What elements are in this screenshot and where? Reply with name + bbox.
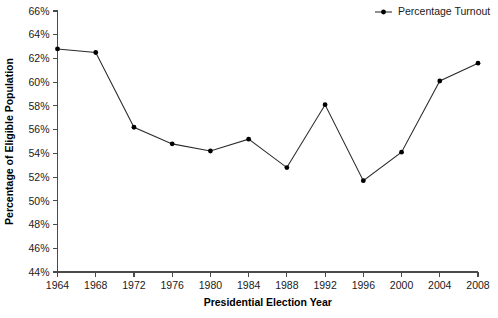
y-axis-tick-label: 48% xyxy=(28,218,49,230)
data-point-marker[interactable] xyxy=(476,61,481,66)
x-axis-tick-label: 1984 xyxy=(237,279,261,291)
data-point-marker[interactable] xyxy=(132,125,137,130)
y-axis-tick-label: 66% xyxy=(28,5,49,17)
y-axis-tick-label: 60% xyxy=(28,76,49,88)
data-point-marker[interactable] xyxy=(284,165,289,170)
y-axis-tick-label: 50% xyxy=(28,195,49,207)
y-axis-tick-label: 44% xyxy=(28,266,49,278)
data-point-marker[interactable] xyxy=(323,102,328,107)
y-axis-tick-label: 58% xyxy=(28,100,49,112)
data-point-marker[interactable] xyxy=(55,47,60,52)
y-axis-tick-label: 64% xyxy=(28,28,49,40)
data-point-marker[interactable] xyxy=(246,137,251,142)
x-axis-tick-label: 1980 xyxy=(199,279,223,291)
y-axis-tick-label: 52% xyxy=(28,171,49,183)
series-line-0 xyxy=(58,49,479,181)
x-axis-tick-label: 1968 xyxy=(84,279,108,291)
data-point-marker[interactable] xyxy=(170,141,175,146)
x-axis-tick-label: 1964 xyxy=(46,279,70,291)
data-point-marker[interactable] xyxy=(208,149,213,154)
y-axis-tick-label: 54% xyxy=(28,147,49,159)
x-axis-tick-label: 1992 xyxy=(313,279,337,291)
y-axis-tick-label: 56% xyxy=(28,123,49,135)
x-axis-tick-label: 2000 xyxy=(390,279,414,291)
data-point-marker[interactable] xyxy=(399,150,404,155)
x-axis-tick-label: 1972 xyxy=(122,279,146,291)
x-axis-title: Presidential Election Year xyxy=(204,296,332,308)
x-axis-tick-label: 1988 xyxy=(275,279,299,291)
data-point-marker[interactable] xyxy=(93,50,98,55)
x-axis-tick-label: 1996 xyxy=(352,279,376,291)
x-axis-tick-label: 2004 xyxy=(428,279,452,291)
data-point-marker[interactable] xyxy=(361,178,366,183)
legend-marker-icon xyxy=(381,10,386,15)
line-chart: 44%46%48%50%52%54%56%58%60%62%64%66%1964… xyxy=(0,0,498,318)
data-point-marker[interactable] xyxy=(437,79,442,84)
y-axis-title: Percentage of Eligible Population xyxy=(3,58,15,225)
x-axis-tick-label: 2008 xyxy=(466,279,490,291)
y-axis-tick-label: 62% xyxy=(28,52,49,64)
chart-container: 44%46%48%50%52%54%56%58%60%62%64%66%1964… xyxy=(0,0,498,318)
x-axis-tick-label: 1976 xyxy=(161,279,185,291)
y-axis-tick-label: 46% xyxy=(28,242,49,254)
legend-item-label: Percentage Turnout xyxy=(398,5,490,17)
legend-item[interactable]: Percentage Turnout xyxy=(375,5,490,17)
